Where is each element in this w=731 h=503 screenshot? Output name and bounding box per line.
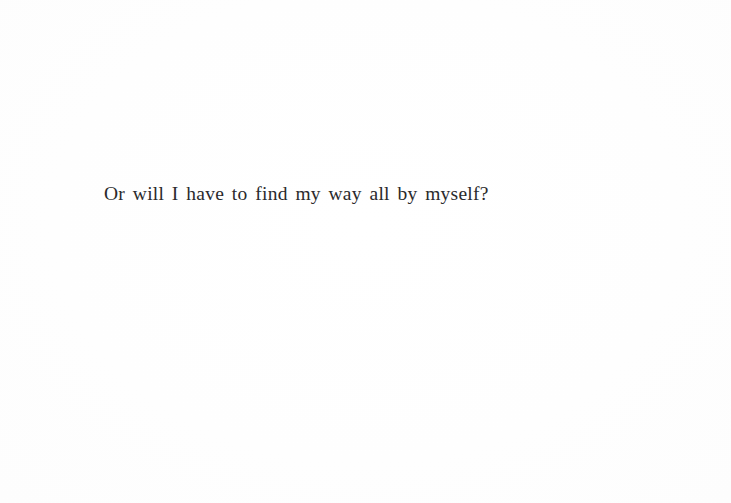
- body-text-block: Or will I have to find my way all by mys…: [104, 181, 664, 207]
- scanned-page: Or will I have to find my way all by mys…: [0, 0, 731, 503]
- body-line: Or will I have to find my way all by mys…: [104, 181, 664, 207]
